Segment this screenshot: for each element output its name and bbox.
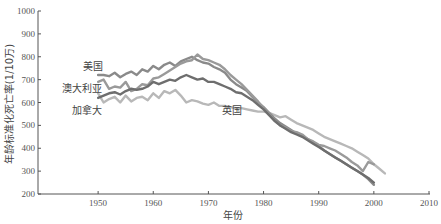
x-tick-label: 1990 <box>310 198 329 208</box>
x-tick-label: 1960 <box>144 198 163 208</box>
axes <box>38 11 430 194</box>
x-tick-label: 2000 <box>365 198 384 208</box>
y-tick-label: 700 <box>22 75 36 85</box>
series-lines <box>98 55 385 185</box>
y-tick-label: 300 <box>22 166 36 176</box>
y-tick-label: 200 <box>22 189 36 199</box>
y-tick-label: 800 <box>22 52 36 62</box>
series-label-canada: 加拿大 <box>72 104 102 116</box>
y-axis-title: 年龄标准化死亡率(1/10万) <box>3 44 15 164</box>
x-tick-label: 2010 <box>420 198 439 208</box>
y-tick-label: 600 <box>22 98 36 108</box>
y-tick-label: 900 <box>22 29 36 39</box>
series-label-australia: 澳大利亚 <box>62 82 102 94</box>
y-tick-label: 1000 <box>17 6 36 16</box>
series-label-usa: 美国 <box>83 60 103 72</box>
y-tick-label: 500 <box>22 120 36 130</box>
line-chart: 1950196019701980199020002010 20030040050… <box>0 0 441 224</box>
x-tick-label: 1950 <box>89 198 108 208</box>
series-line-usa <box>98 57 374 185</box>
x-tick-label: 1980 <box>255 198 274 208</box>
series-label-uk: 英国 <box>222 104 242 116</box>
series-line-canada <box>98 75 374 183</box>
x-axis-title: 年份 <box>223 209 243 221</box>
y-tick-label: 400 <box>22 143 36 153</box>
x-tick-label: 1970 <box>199 198 218 208</box>
y-ticks: 2003004005006007008009001000 <box>17 6 41 199</box>
